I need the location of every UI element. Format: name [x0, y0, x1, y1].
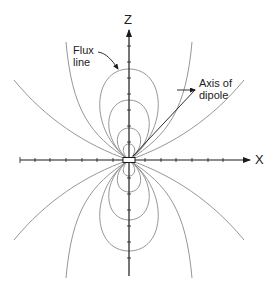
flux-line-label-line-2: line [73, 57, 94, 69]
dipole-marker [123, 158, 135, 163]
flux-line-leader [98, 52, 118, 69]
z-axis-label: Z [124, 13, 132, 27]
field-outer-lower-right-1 [129, 160, 192, 278]
flux-line-label: Flux line [73, 45, 94, 68]
field-outer-upper-right-1 [129, 42, 192, 160]
axis-of-dipole-label-line-2: dipole [199, 90, 232, 102]
axis-of-dipole-label: Axis of dipole [199, 78, 232, 101]
axis-of-dipole-label-line-1: Axis of [199, 78, 232, 90]
axis-of-dipole-leader [133, 90, 195, 156]
flux-line-label-line-1: Flux [73, 45, 94, 57]
axes [20, 30, 250, 276]
field-outer-lower-left-1 [66, 160, 129, 278]
x-axis-label: X [255, 153, 264, 167]
dipole-field-diagram [0, 0, 273, 287]
axis-ticks [20, 46, 223, 258]
